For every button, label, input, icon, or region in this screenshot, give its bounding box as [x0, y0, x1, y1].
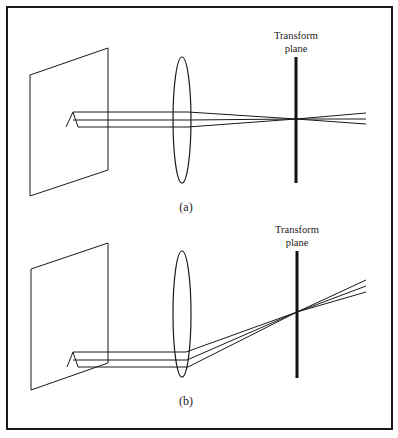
ray-bottom	[78, 292, 366, 367]
ray-bundle	[73, 112, 366, 127]
caption-a: (a)	[179, 200, 192, 214]
transform-label-line1: Transform	[274, 30, 318, 41]
fourier-optics-diagram: Transform plane (a) Transform plane (b)	[0, 0, 398, 438]
ray-top	[73, 112, 366, 124]
panel-b: Transform plane (b)	[31, 224, 366, 408]
ray-middle	[73, 286, 366, 360]
transform-label-line2: plane	[285, 43, 308, 54]
object-plane	[31, 243, 108, 390]
figure-border	[7, 7, 392, 429]
panel-a: Transform plane (a)	[30, 30, 366, 214]
transform-label-line2: plane	[286, 237, 309, 248]
object-plane	[30, 48, 108, 196]
ray-bundle	[73, 280, 366, 367]
transform-label-line1: Transform	[275, 224, 319, 235]
caption-b: (b)	[179, 394, 193, 408]
lens	[173, 251, 191, 377]
ray-top	[73, 280, 366, 352]
ray-middle	[73, 119, 366, 120]
